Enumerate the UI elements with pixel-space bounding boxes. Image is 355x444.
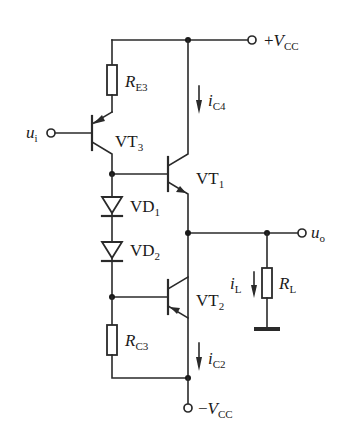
vd2-label: VD2 bbox=[130, 241, 160, 262]
output-node: uo bbox=[185, 223, 326, 244]
vcc-neg-terminal bbox=[184, 404, 192, 412]
ic4-label: iC4 bbox=[208, 91, 226, 112]
vt3-label: VT3 bbox=[115, 132, 144, 153]
current-il: iL bbox=[230, 272, 257, 298]
rl-label: RL bbox=[278, 274, 296, 295]
il-label: iL bbox=[230, 274, 242, 295]
current-ic4: iC4 bbox=[196, 86, 226, 114]
arrow-down-icon bbox=[196, 357, 202, 371]
top-rail: +VCC bbox=[112, 31, 299, 64]
vcc-neg-label: −VCC bbox=[198, 399, 233, 420]
rc3-label: RC3 bbox=[124, 331, 149, 352]
transistor-vt3: ui VT3 bbox=[26, 112, 144, 174]
input-terminal bbox=[47, 129, 55, 137]
vd1-label: VD1 bbox=[130, 197, 160, 218]
re3-label: RE3 bbox=[124, 72, 148, 93]
current-ic2: iC2 bbox=[196, 343, 226, 371]
output-label: uo bbox=[311, 223, 326, 244]
ground-icon bbox=[254, 327, 280, 331]
transistor-vt2: VT2 bbox=[109, 277, 224, 318]
diode-vd1: VD1 bbox=[102, 174, 160, 297]
output-terminal bbox=[298, 229, 306, 237]
vcc-pos-terminal bbox=[248, 36, 256, 44]
input-label: ui bbox=[26, 123, 38, 144]
diode-vd2: VD2 bbox=[102, 241, 160, 262]
resistor-rl: RL bbox=[254, 233, 296, 331]
junction-dot bbox=[185, 230, 191, 236]
circuit-diagram: +VCC RE3 ui VT3 VT1 iC4 VD1 bbox=[0, 0, 355, 444]
vt2-label: VT2 bbox=[196, 291, 224, 312]
arrow-down-icon bbox=[251, 285, 257, 298]
vt1-label: VT1 bbox=[196, 169, 224, 190]
arrow-down-icon bbox=[196, 100, 202, 114]
bottom-rail: −VCC bbox=[184, 375, 233, 420]
ic2-label: iC2 bbox=[208, 349, 226, 370]
vcc-pos-label: +VCC bbox=[264, 31, 299, 52]
resistor-re3: RE3 bbox=[107, 65, 148, 112]
